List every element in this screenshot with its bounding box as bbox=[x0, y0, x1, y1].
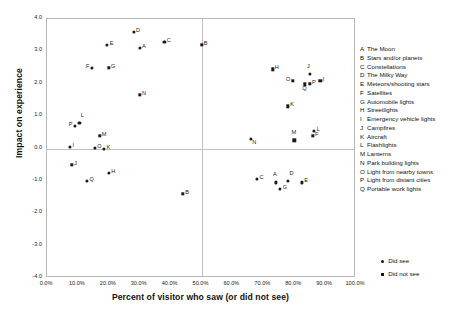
data-point: K bbox=[103, 147, 106, 150]
data-point: F bbox=[311, 134, 314, 137]
data-point-label: E bbox=[110, 41, 114, 47]
data-point-marker bbox=[274, 181, 277, 184]
key-item-label: The Milky Way bbox=[367, 72, 467, 78]
data-point: B bbox=[181, 192, 184, 195]
data-point-marker bbox=[70, 163, 73, 166]
key-item-a: AThe Moon bbox=[360, 46, 467, 52]
key-item-letter: E bbox=[360, 81, 367, 87]
data-point-marker bbox=[200, 43, 203, 46]
data-point-marker bbox=[291, 79, 294, 82]
data-point-label: E bbox=[304, 179, 308, 185]
key-item-letter: O bbox=[360, 169, 367, 175]
key-item-letter: Q bbox=[360, 186, 367, 192]
gridline-horizontal bbox=[47, 19, 354, 20]
data-point-label: Q bbox=[90, 177, 94, 183]
key-item-label: Light from nearby towns bbox=[367, 169, 467, 175]
key-item-letter: H bbox=[360, 107, 367, 113]
data-point: C bbox=[163, 40, 166, 43]
data-point-label: N bbox=[142, 91, 146, 97]
key-item-label: Constellations bbox=[367, 64, 467, 70]
key-item-letter: N bbox=[360, 160, 367, 166]
data-point-label: Q bbox=[302, 87, 306, 93]
data-point-label: L bbox=[81, 113, 84, 119]
data-point: G bbox=[279, 187, 282, 190]
key-item-label: Meteors/shooting stars bbox=[367, 81, 467, 87]
data-point-label: K bbox=[107, 145, 111, 151]
data-point: E bbox=[106, 43, 109, 46]
data-point: D bbox=[132, 30, 135, 33]
series-legend-marker bbox=[381, 260, 384, 263]
data-point-label: H bbox=[111, 169, 115, 175]
key-item-k: KAircraft bbox=[360, 134, 467, 140]
key-item-p: PLight from distant cities bbox=[360, 177, 467, 183]
data-point: C bbox=[256, 178, 259, 181]
data-point: B bbox=[200, 43, 203, 46]
key-item-letter: I bbox=[360, 116, 367, 122]
y-axis-tick-label: -4.0 bbox=[18, 274, 42, 280]
data-point-marker bbox=[107, 171, 110, 174]
data-point-marker bbox=[286, 179, 289, 182]
data-point-label: M bbox=[102, 132, 107, 138]
data-point-marker bbox=[107, 66, 110, 69]
key-item-label: Satellites bbox=[367, 90, 467, 96]
data-point: L bbox=[78, 121, 81, 124]
y-axis-tick-label: -3.0 bbox=[18, 242, 42, 248]
series-legend-label: Did see bbox=[388, 258, 409, 264]
data-point: D bbox=[286, 179, 289, 182]
series-legend-item: Did see bbox=[381, 258, 420, 264]
key-item-letter: D bbox=[360, 72, 367, 78]
x-axis-tick-label: 10.0% bbox=[60, 281, 94, 287]
key-item-label: Park building lights bbox=[367, 160, 467, 166]
data-point: E bbox=[300, 181, 303, 184]
data-point-label: I bbox=[73, 143, 75, 149]
data-point-label: J bbox=[74, 161, 77, 167]
data-point-marker bbox=[90, 66, 93, 69]
x-axis-tick-label: 50.0% bbox=[184, 281, 218, 287]
gridline-horizontal bbox=[47, 51, 354, 52]
key-item-i: IEmergency vehicle lights bbox=[360, 116, 467, 122]
key-item-n: NPark building lights bbox=[360, 160, 467, 166]
data-point: J bbox=[308, 72, 311, 75]
gridline-horizontal bbox=[47, 278, 354, 279]
key-item-label: Stars and/or planets bbox=[367, 55, 467, 61]
y-axis-title: Impact on experience bbox=[14, 33, 24, 193]
data-point-label: G bbox=[283, 185, 287, 191]
data-point: O bbox=[291, 79, 294, 82]
data-point: A bbox=[274, 181, 277, 184]
x-axis-tick-label: 70.0% bbox=[245, 281, 279, 287]
gridline-horizontal bbox=[47, 246, 354, 247]
data-point: H bbox=[271, 67, 274, 70]
key-item-letter: M bbox=[360, 151, 367, 157]
data-point-marker bbox=[256, 178, 259, 181]
data-point-marker bbox=[292, 139, 295, 142]
data-point-label: C bbox=[260, 176, 264, 182]
key-item-label: The Moon bbox=[367, 46, 467, 52]
data-point-marker bbox=[69, 145, 72, 148]
data-point: O bbox=[93, 146, 96, 149]
x-axis-tick-label: 40.0% bbox=[153, 281, 187, 287]
data-point-label: A bbox=[273, 173, 277, 179]
data-point-marker bbox=[271, 67, 274, 70]
data-point-marker bbox=[103, 147, 106, 150]
data-point-marker bbox=[279, 187, 282, 190]
key-item-letter: K bbox=[360, 134, 367, 140]
key-item-label: Automobile lights bbox=[367, 99, 467, 105]
scatter-chart: DCEAFJLPLNIOKHCQDAEGBGHOIPQNKMFMJB 4.03.… bbox=[0, 0, 469, 319]
data-point: Q bbox=[303, 83, 306, 86]
data-point-marker bbox=[138, 47, 141, 50]
data-point-marker bbox=[132, 30, 135, 33]
key-item-label: Lanterns bbox=[367, 151, 467, 157]
key-item-g: GAutomobile lights bbox=[360, 99, 467, 105]
key-item-letter: A bbox=[360, 46, 367, 52]
data-point-label: B bbox=[185, 190, 189, 196]
data-point-marker bbox=[98, 134, 101, 137]
series-legend-label: Did not see bbox=[388, 271, 419, 277]
category-key-legend: AThe MoonBStars and/or planetsCConstella… bbox=[360, 46, 467, 195]
key-item-letter: P bbox=[360, 177, 367, 183]
key-item-m: MLanterns bbox=[360, 151, 467, 157]
data-point-marker bbox=[93, 146, 96, 149]
data-point-label: J bbox=[307, 64, 310, 70]
key-item-j: JCampfires bbox=[360, 125, 467, 131]
data-point-marker bbox=[286, 105, 289, 108]
key-item-f: FSatellites bbox=[360, 90, 467, 96]
